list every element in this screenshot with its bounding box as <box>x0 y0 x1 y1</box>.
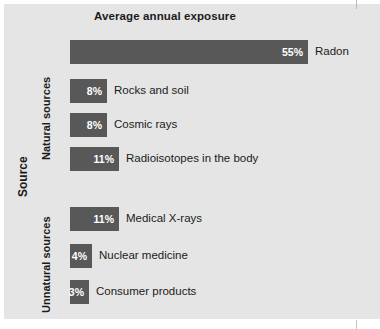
bar-category-label: Consumer products <box>96 286 196 298</box>
bar-value-label: 8% <box>87 120 102 131</box>
bar: 8% <box>70 113 107 137</box>
bar-category-label: Radon <box>315 46 349 58</box>
bar-category-label: Radioisotopes in the body <box>126 153 258 165</box>
bar-row: 11%Medical X-rays <box>70 207 202 231</box>
bar-row: 3%Consumer products <box>70 280 196 304</box>
group-label-natural-sources: Natural sources <box>40 77 52 160</box>
bar-value-label: 8% <box>87 86 102 97</box>
bar-value-label: 11% <box>94 154 114 165</box>
bar-value-label: 4% <box>72 251 87 262</box>
exposure-bar-chart: Average annual exposure Source Natural s… <box>0 0 380 329</box>
bar-category-label: Cosmic rays <box>114 119 177 131</box>
bar-value-label: 11% <box>94 214 114 225</box>
bar: 4% <box>70 244 92 268</box>
bar: 55% <box>70 40 308 64</box>
bar: 11% <box>70 207 119 231</box>
registration-tick-top-icon <box>356 0 357 9</box>
bar: 11% <box>70 147 119 171</box>
bar-category-label: Nuclear medicine <box>99 250 188 262</box>
bar-category-label: Medical X-rays <box>126 213 202 225</box>
y-axis-title: Source <box>16 156 30 197</box>
bar-row: 11%Radioisotopes in the body <box>70 147 258 171</box>
chart-title: Average annual exposure <box>0 10 380 22</box>
bar-row: 8%Cosmic rays <box>70 113 177 137</box>
bar-row: 55%Radon <box>70 40 349 64</box>
bar-row: 8%Rocks and soil <box>70 79 189 103</box>
bar: 3% <box>70 280 89 304</box>
bar: 8% <box>70 79 107 103</box>
bar-category-label: Rocks and soil <box>114 85 189 97</box>
bar-row: 4%Nuclear medicine <box>70 244 188 268</box>
bar-value-label: 3% <box>69 287 84 298</box>
bar-value-label: 55% <box>282 47 303 58</box>
registration-tick-bottom-icon <box>356 320 357 329</box>
group-label-unnatural-sources: Unnatural sources <box>40 216 52 313</box>
